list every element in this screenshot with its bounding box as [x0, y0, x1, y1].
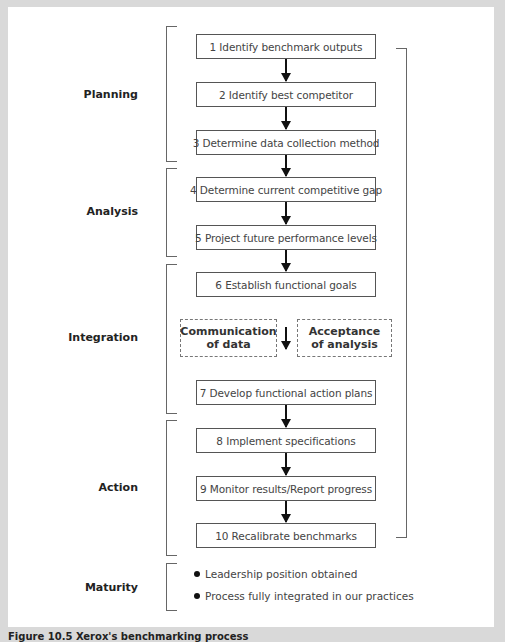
note-line: Communication: [180, 325, 276, 338]
stage-label-integration: Integration: [18, 331, 138, 344]
arrow-down-icon: [285, 327, 287, 349]
maturity-item-label: Process fully integrated in our practice…: [205, 590, 414, 602]
step-5-box: 5 Project future performance levels: [196, 225, 376, 250]
step-4-box: 4 Determine current competitive gap: [196, 177, 376, 202]
bracket-maturity: [166, 563, 177, 611]
arrow-down-icon: [285, 250, 287, 271]
arrow-down-icon: [285, 501, 287, 522]
step-7-box: 7 Develop functional action plans: [196, 380, 376, 405]
step-2-box: 2 Identify best competitor: [196, 82, 376, 107]
maturity-item: Process fully integrated in our practice…: [194, 590, 414, 602]
bracket-action: [166, 420, 177, 556]
stage-label-action: Action: [18, 481, 138, 494]
feedback-loop-bracket: [396, 48, 407, 538]
note-line: Acceptance: [309, 325, 380, 338]
step-1-box: 1 Identify benchmark outputs: [196, 34, 376, 59]
note-communication-of-data: Communication of data: [180, 319, 277, 357]
maturity-item: Leadership position obtained: [194, 568, 357, 580]
arrow-down-icon: [285, 405, 287, 427]
stage-label-maturity: Maturity: [18, 581, 138, 594]
bullet-icon: [194, 593, 200, 599]
bullet-icon: [194, 571, 200, 577]
step-9-box: 9 Monitor results/Report progress: [196, 476, 376, 501]
stage-label-planning: Planning: [18, 88, 138, 101]
note-line: of analysis: [309, 338, 380, 351]
step-3-box: 3 Determine data collection method: [196, 130, 376, 155]
bracket-planning: [166, 26, 177, 162]
arrow-down-icon: [285, 202, 287, 224]
maturity-item-label: Leadership position obtained: [205, 568, 357, 580]
note-line: of data: [180, 338, 276, 351]
arrow-down-icon: [285, 107, 287, 129]
step-6-box: 6 Establish functional goals: [196, 272, 376, 297]
step-10-box: 10 Recalibrate benchmarks: [196, 523, 376, 548]
note-acceptance-of-analysis: Acceptance of analysis: [297, 319, 392, 357]
arrow-down-icon: [285, 453, 287, 475]
step-8-box: 8 Implement specifications: [196, 428, 376, 453]
stage-label-analysis: Analysis: [18, 205, 138, 218]
bracket-integration: [166, 264, 177, 414]
figure-caption: Figure 10.5 Xerox's benchmarking process: [8, 631, 248, 642]
bracket-analysis: [166, 168, 177, 257]
arrow-down-icon: [285, 155, 287, 176]
arrow-down-icon: [285, 59, 287, 81]
